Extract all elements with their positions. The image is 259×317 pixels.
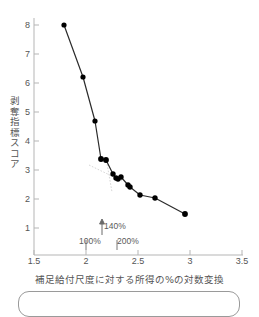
annotation-140-percent: 140% [104, 221, 126, 231]
x-axis-ticks [34, 250, 242, 255]
data-point [103, 157, 109, 163]
x-tick-label-3: 3 [177, 256, 203, 266]
data-point [152, 195, 157, 200]
data-point [127, 184, 132, 189]
y-tick-label-1: 1 [16, 223, 30, 233]
data-point [98, 156, 104, 162]
data-point [137, 192, 142, 197]
caption-box [18, 291, 240, 317]
annotation-200-percent: 200% [117, 236, 139, 246]
x-tick-label-2p5: 2.5 [125, 256, 151, 266]
y-tick-label-7: 7 [16, 49, 30, 59]
x-tick-label-3p5: 3.5 [229, 256, 255, 266]
y-tick-label-2: 2 [16, 194, 30, 204]
data-point [118, 174, 123, 179]
trend-line [64, 25, 185, 214]
y-axis-ticks [34, 25, 39, 228]
y-axis-title: 剥奪指標スコア [8, 96, 21, 170]
annotation-100-percent: 100% [79, 236, 101, 246]
data-point [61, 22, 66, 27]
x-tick-label-2: 2 [73, 256, 99, 266]
data-point [80, 74, 85, 79]
data-point [182, 211, 188, 217]
data-point [92, 118, 97, 123]
y-tick-label-8: 8 [16, 20, 30, 30]
y-tick-label-6: 6 [16, 78, 30, 88]
data-points [61, 22, 188, 217]
axis-lines [34, 18, 243, 255]
tangent-guide [89, 158, 122, 192]
x-tick-label-1p5: 1.5 [21, 256, 47, 266]
x-axis-title: 補足給付尺度に対する所得の%の対数変換 [0, 272, 259, 286]
